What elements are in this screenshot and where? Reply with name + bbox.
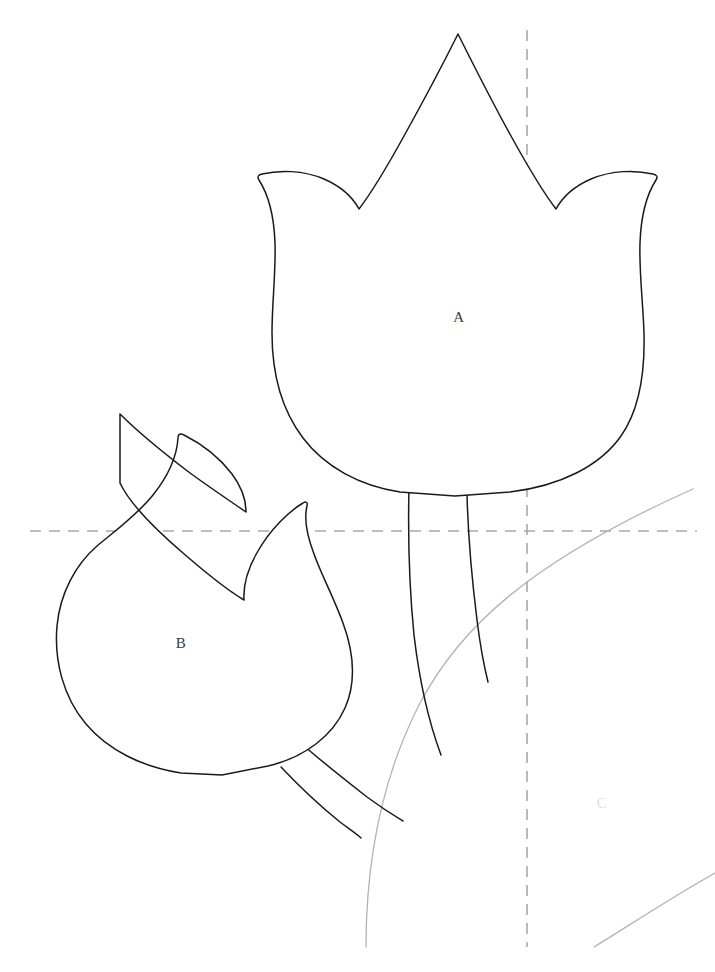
pattern-piece-a: A — [258, 34, 657, 496]
guide-arc-corner — [594, 873, 715, 947]
piece-a-outline — [258, 34, 657, 496]
stem-b-lower-edge — [281, 767, 361, 838]
piece-b-label: B — [176, 635, 187, 651]
pattern-piece-b: B — [56, 414, 352, 775]
pattern-canvas: A B C — [0, 0, 715, 972]
guide-arcs-group — [366, 489, 715, 947]
pattern-drawing: A B C — [0, 0, 715, 972]
guide-arc-main — [366, 489, 693, 947]
region-c-label: C — [597, 795, 608, 811]
piece-a-label: A — [453, 309, 464, 325]
region-label-c-group: C — [597, 795, 608, 811]
piece-b-outline — [56, 414, 352, 775]
stem-a-right-edge — [467, 494, 488, 682]
